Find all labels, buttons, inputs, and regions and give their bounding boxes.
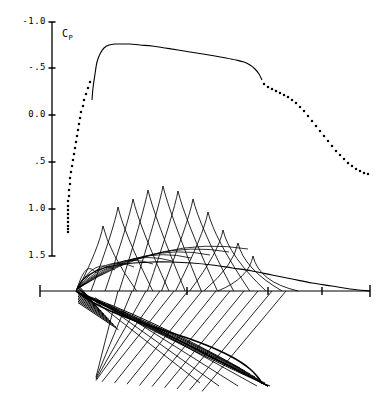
mach-line-right-running [208,212,250,291]
cp-data-point [68,189,70,191]
cp-data-point [291,99,293,101]
cp-data-point [67,205,69,207]
cp-data-point [75,141,77,143]
cp-data-point [77,129,79,131]
cp-data-point [299,106,301,108]
cp-data-point [67,200,69,202]
cp-points-upper-surface-cp-dotted-aft [263,83,369,175]
mach-line-right-running [163,186,201,291]
cp-series-group [67,44,369,233]
cp-data-point [73,153,75,155]
cp-data-point [335,150,337,152]
cp-data-point [89,81,91,83]
mach-line-right-running [193,199,234,291]
cp-data-point [339,154,341,156]
cp-data-point [295,102,297,104]
cp-data-point [283,94,285,96]
cp-data-point [80,111,82,113]
cp-axis [49,22,56,256]
cp-data-point [355,168,357,170]
cp-data-point [74,147,76,149]
cp-data-point [323,135,325,137]
cp-data-point [319,130,321,132]
cp-data-point [70,171,72,173]
mach-line-right-running [148,190,185,291]
cp-data-point [331,145,333,147]
cp-data-point [87,87,89,89]
cp-data-point [279,92,281,94]
mach-line-right-running [223,230,266,291]
cp-data-point [67,231,69,233]
cp-data-point [67,228,69,230]
cp-data-point [287,96,289,98]
cp-data-point [315,125,317,127]
cp-data-point [68,195,70,197]
cp-data-point [307,115,309,117]
cp-data-point [311,120,313,122]
cp-data-point [69,177,71,179]
cp-tick-label: -.5 [28,63,46,72]
cp-axis-title-subscript: P [69,34,74,42]
cp-data-point [67,221,69,223]
cp-data-point [363,172,365,174]
cp-data-point [71,165,73,167]
cp-data-point [367,173,369,175]
cp-data-point [67,209,69,211]
cp-data-point [78,123,80,125]
mach-line-left-running [218,256,253,291]
mach-line-left-running [119,190,148,291]
cp-tick-label: 0.0 [28,110,46,119]
cp-tick-label: .5 [34,157,46,166]
mach-line-lower-left-running [202,291,286,391]
cp-data-point [359,170,361,172]
cp-data-point [69,183,71,185]
mach-line-lower-left-running [190,291,273,390]
cp-data-point [67,225,69,227]
figure-root: CP -1.0-.50.0.51.01.5 [0,0,388,397]
cp-data-point [267,86,269,88]
cp-data-point [327,140,329,142]
plot-canvas [0,0,388,397]
mach-line-left-running [133,186,163,291]
cp-data-point [67,213,69,215]
cp-data-point [76,135,78,137]
cp-data-point [83,99,85,101]
cp-data-point [82,105,84,107]
cp-tick-label: 1.0 [28,204,46,213]
mach-line-right-running [178,191,217,291]
cp-data-point [85,93,87,95]
mach-line-right-running [253,256,298,291]
mach-line-left-running [147,191,178,291]
cp-data-point [351,165,353,167]
cp-tick-label: 1.5 [28,251,46,260]
cp-points-lower-surface-cp-dotted-leading-edge [67,81,91,233]
cp-axis-title: CP [62,28,73,42]
cp-curve-upper-surface-cp-solid [92,44,262,100]
cp-data-point [303,110,305,112]
cp-data-point [343,158,345,160]
cp-data-point [271,88,273,90]
cp-data-point [79,117,81,119]
mach-line-right-running [133,199,169,291]
cp-tick-label: -1.0 [22,17,46,26]
cp-data-point [275,90,277,92]
cp-data-point [67,217,69,219]
x-axis [40,285,370,297]
cp-data-point [72,159,74,161]
cp-data-point [263,83,265,85]
cp-data-point [347,162,349,164]
